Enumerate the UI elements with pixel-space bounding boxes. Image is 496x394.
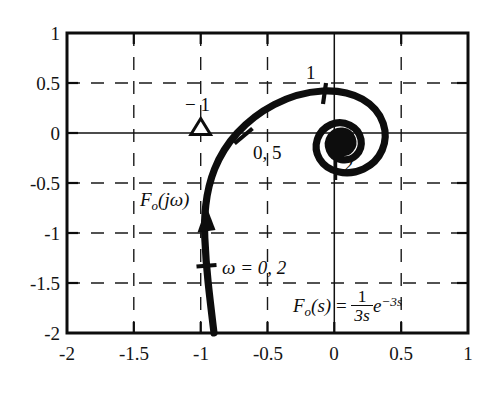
curve-label-F: F [140,189,152,210]
y-axis-tick-label: -0.5 [2,174,60,193]
omega-1-label: 1 [306,63,316,82]
y-axis-tick-label: 0.5 [8,74,60,93]
x-axis-tick-label: -1 [181,344,221,363]
y-axis-tick-label: -2 [14,324,60,343]
y-axis-tick-label: 1 [20,24,60,43]
x-axis-tick-label: -2 [47,344,87,363]
y-axis-tick-label: -1.5 [2,274,60,293]
curve-label-arg: (jω) [158,189,189,210]
x-axis-tick-label: 1 [448,344,488,363]
nyquist-plot-canvas [0,0,496,394]
omega-05-label: 0, 5 [253,143,282,162]
transfer-denominator: 3s [351,305,373,324]
transfer-numerator: 1 [351,287,373,305]
transfer-arg: (s) [311,295,331,316]
omega-2-label: 2 [344,155,354,174]
transfer-exponent: −3s [381,294,402,309]
x-axis-tick-label: -0.5 [240,344,296,363]
transfer-F: F [293,295,305,316]
omega-1-tick-marker [323,83,326,104]
plot-grid [67,33,468,333]
y-axis-tick-label: -1 [14,224,60,243]
y-axis-tick-label: 0 [20,124,60,143]
transfer-fraction: 13s [351,287,373,325]
x-axis-tick-label: -1.5 [106,344,162,363]
x-axis-tick-label: 0.5 [373,344,429,363]
critical-point-label: − 1 [185,95,210,114]
omega-start-label: ω = 0, 2 [222,258,286,277]
transfer-equals: = [336,295,347,316]
omega-0.2-tick-marker [197,265,217,267]
nyquist-figure: 1 0.5 0 -0.5 -1 -1.5 -2 -2 -1.5 -1 -0.5 … [0,0,496,394]
critical-point-triangle-icon [191,119,211,135]
transfer-function-label: Fo(s) = 13se−3s [293,287,402,325]
curve-label: Fo(jω) [140,190,189,213]
x-axis-tick-label: 0 [314,344,354,363]
